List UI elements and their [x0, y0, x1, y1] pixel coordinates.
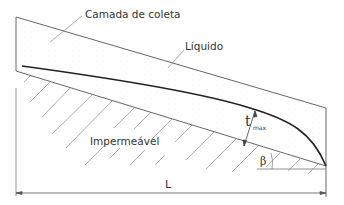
- impermeable-label: Impermeável: [90, 136, 159, 147]
- drainage-layer-diagram: Camada de coleta Líquido Impermeável L t…: [0, 0, 344, 205]
- collection-layer-region: [16, 17, 326, 166]
- length-dimension: [16, 192, 326, 195]
- diagram-drawing: [0, 0, 344, 205]
- tmax-subscript: max: [253, 125, 266, 131]
- angle-beta-label: β: [260, 156, 266, 167]
- tmax-label: t: [245, 114, 251, 128]
- collection-layer-label: Camada de coleta: [85, 9, 180, 20]
- liquid-label: Líquido: [185, 41, 223, 52]
- length-label: L: [165, 179, 171, 190]
